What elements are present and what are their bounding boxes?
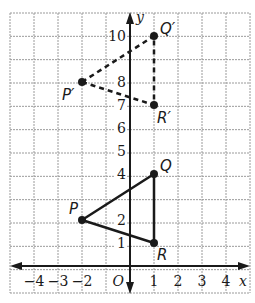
y-tick-label: 8 <box>117 74 126 90</box>
x-tick-label: −4 <box>24 273 45 289</box>
coordinate-plane-diagram: −4−3−21234124567810Oxy PQR P′Q′R′ <box>0 0 255 303</box>
vertex-point <box>150 101 158 109</box>
y-tick-label: 5 <box>117 143 126 159</box>
x-tick-label: 1 <box>150 273 159 289</box>
dashed-triangle <box>82 36 154 105</box>
x-tick-label: −2 <box>72 273 93 289</box>
x-tick-label: −3 <box>48 273 69 289</box>
vertex-label: P′ <box>62 86 75 104</box>
vertex-label: R′ <box>157 109 171 127</box>
y-tick-label: 2 <box>117 212 126 228</box>
vertex-point <box>78 216 86 224</box>
tick-labels: −4−3−21234124567810Oxy <box>24 9 247 289</box>
vertex-label: Q <box>160 157 172 175</box>
vertex-point <box>78 78 86 86</box>
y-tick-label: 7 <box>117 97 126 113</box>
solid-triangle <box>82 174 154 243</box>
x-tick-label: 3 <box>198 273 207 289</box>
x-axis-left-arrow-icon <box>10 262 22 270</box>
y-tick-label: 6 <box>117 120 126 136</box>
y-axis-up-arrow-icon <box>126 12 134 24</box>
x-axis-label: x <box>239 273 247 289</box>
vertex-point <box>150 32 158 40</box>
vertex-label: R <box>157 246 167 264</box>
x-tick-label: 2 <box>174 273 183 289</box>
x-tick-label: 4 <box>222 273 231 289</box>
vertex-point <box>150 170 158 178</box>
y-tick-label: 1 <box>117 235 126 251</box>
y-axis-down-arrow-icon <box>126 282 134 294</box>
vertex-label: P <box>69 200 79 218</box>
origin-label: O <box>113 273 125 289</box>
y-axis-label: y <box>135 9 145 25</box>
vertex-label: Q′ <box>160 20 176 38</box>
y-tick-label: 10 <box>108 28 126 44</box>
x-axis-right-arrow-icon <box>238 262 250 270</box>
y-tick-label: 4 <box>117 166 126 182</box>
